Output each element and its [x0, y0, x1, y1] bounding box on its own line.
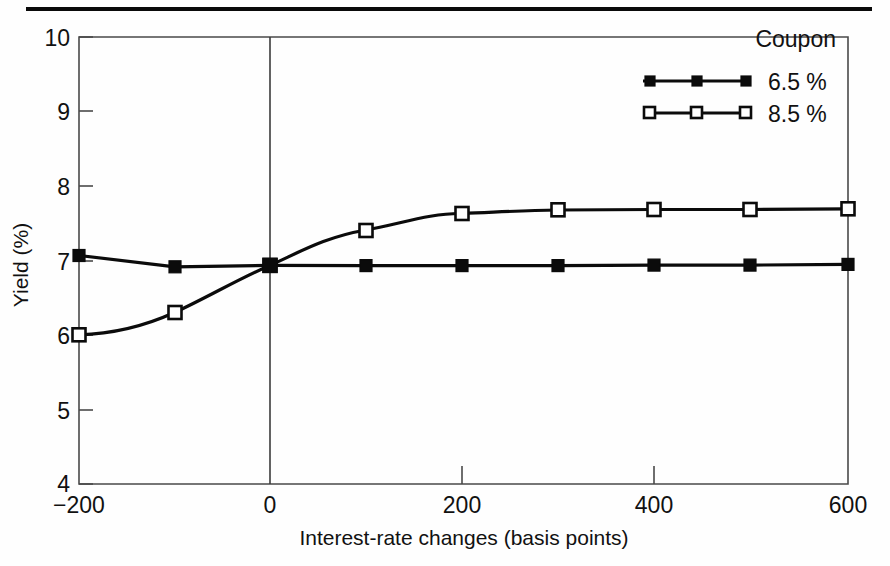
data-point-marker — [744, 259, 756, 271]
x-tick-label: 400 — [635, 492, 673, 518]
x-tick-label: 600 — [829, 492, 867, 518]
data-point-marker — [842, 258, 854, 270]
y-tick-label: 5 — [57, 398, 70, 424]
legend-entry-6-5-percent[interactable]: 6.5 % — [643, 69, 827, 95]
data-point-marker — [842, 202, 855, 215]
x-axis-tick-labels: −200 0 200 400 600 — [53, 492, 867, 518]
line-chart: 10 9 8 7 6 5 4 −200 0 200 400 600 Intere… — [0, 0, 890, 566]
legend-title: Coupon — [755, 26, 836, 52]
chart-legend: Coupon 6.5 % 8.5 % — [643, 26, 836, 127]
y-tick-label: 10 — [44, 25, 70, 51]
data-point-marker — [456, 207, 469, 220]
data-point-marker — [456, 260, 468, 272]
legend-label: 6.5 % — [768, 69, 827, 95]
data-point-marker — [744, 203, 757, 216]
x-tick-label: 200 — [443, 492, 481, 518]
y-tick-label: 9 — [57, 99, 70, 125]
legend-marker-open-square — [691, 107, 702, 118]
y-tick-label: 8 — [57, 174, 70, 200]
data-point-marker — [360, 260, 372, 272]
legend-marker-filled-square — [692, 76, 702, 86]
figure-container: 10 9 8 7 6 5 4 −200 0 200 400 600 Intere… — [0, 0, 890, 566]
data-point-marker — [552, 203, 565, 216]
y-tick-label: 7 — [57, 249, 70, 275]
data-point-marker — [552, 260, 564, 272]
x-tick-label: −200 — [53, 492, 105, 518]
y-axis-title: Yield (%) — [9, 223, 32, 307]
legend-marker-filled-square — [741, 76, 751, 86]
legend-marker-filled-square — [645, 76, 655, 86]
data-point-marker — [73, 328, 86, 341]
legend-entry-8-5-percent[interactable]: 8.5 % — [643, 101, 827, 127]
data-point-marker — [73, 250, 85, 262]
x-axis-title: Interest-rate changes (basis points) — [299, 526, 628, 549]
legend-marker-open-square — [644, 107, 655, 118]
data-point-marker — [169, 261, 181, 273]
data-point-marker — [648, 203, 661, 216]
data-point-marker — [648, 259, 660, 271]
legend-label: 8.5 % — [768, 101, 827, 127]
series-6-5-percent — [73, 250, 854, 273]
y-tick-label: 6 — [57, 323, 70, 349]
y-axis-tick-labels: 10 9 8 7 6 5 4 — [44, 25, 70, 497]
x-axis-ticks — [462, 466, 654, 484]
data-point-marker — [360, 224, 373, 237]
data-point-marker — [169, 306, 182, 319]
x-tick-label: 0 — [264, 492, 277, 518]
data-point-marker — [263, 258, 277, 272]
legend-marker-open-square — [740, 107, 751, 118]
